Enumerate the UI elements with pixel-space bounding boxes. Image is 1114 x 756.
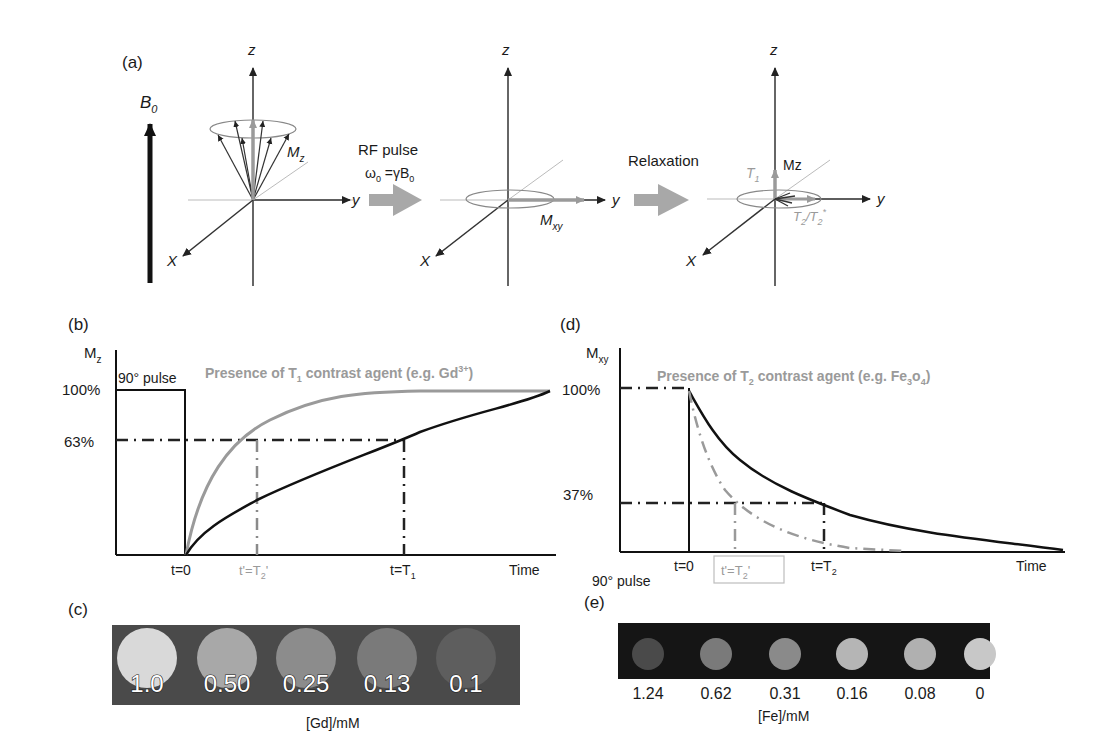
fe-concentration-label: 0.16 bbox=[836, 685, 867, 702]
svg-text:Relaxation: Relaxation bbox=[628, 152, 699, 169]
mz-label: Mz bbox=[287, 143, 305, 164]
y-tick-100: 100% bbox=[562, 381, 600, 398]
panel-d-label: (d) bbox=[560, 315, 581, 334]
mri-relaxation-figure: (a) B0 z y X Mz bbox=[0, 0, 1114, 756]
svg-text:t=0: t=0 bbox=[171, 562, 191, 578]
axes-equilibrium: z y X Mz bbox=[166, 41, 361, 286]
t2-prime-tick: t'=T2' bbox=[721, 563, 750, 581]
fe-well bbox=[769, 638, 801, 670]
rf-pulse-arrow: RF pulse ω0 =γB0 bbox=[358, 141, 422, 216]
native-t2-curve bbox=[689, 391, 1063, 550]
svg-text:y: y bbox=[351, 191, 361, 208]
svg-text:ω0 =γB0: ω0 =γB0 bbox=[365, 165, 414, 184]
t2-tick: t=T2 bbox=[811, 558, 837, 577]
t1-agent-legend: Presence of T1 contrast agent (e.g. Gd3+… bbox=[205, 364, 473, 384]
t2-t2star-label: T2/T2* bbox=[793, 207, 827, 227]
pulse-step bbox=[116, 390, 185, 555]
panel-b-label: (b) bbox=[68, 315, 89, 334]
fe-well bbox=[700, 638, 732, 670]
svg-text:90° pulse: 90° pulse bbox=[592, 573, 651, 589]
t2-prime-tick: t'=T2' bbox=[239, 563, 268, 581]
panel-d: (d) Mxy 100% 37% Presence of T2 contrast… bbox=[560, 315, 1065, 589]
svg-text:z: z bbox=[769, 41, 778, 58]
t2-agent-curve bbox=[689, 391, 905, 551]
t1-tick: t=T1 bbox=[390, 562, 416, 581]
gd-axis-label: [Gd]/mM bbox=[306, 715, 360, 731]
svg-text:z: z bbox=[501, 41, 510, 58]
axes-relaxation: z y X T1 Mz T2/T2* bbox=[685, 41, 886, 286]
native-t1-curve bbox=[186, 391, 550, 555]
panel-e: (e) 1.240.620.310.160.080 [Fe]/mM bbox=[584, 593, 996, 724]
gd-concentration-label: 0.13 bbox=[364, 670, 411, 697]
fe-axis-label: [Fe]/mM bbox=[758, 708, 809, 724]
t2-agent-legend: Presence of T2 contrast agent (e.g. Fe3o… bbox=[657, 368, 930, 387]
mz-plain-label: Mz bbox=[783, 157, 802, 173]
t1-agent-curve bbox=[186, 391, 550, 555]
svg-text:RF pulse: RF pulse bbox=[358, 141, 418, 158]
panel-b: (b) Mz 100% 63% 90° pulse Presence of T1… bbox=[62, 315, 556, 581]
fe-concentration-label: 0.08 bbox=[904, 685, 935, 702]
gd-concentration-label: 0.25 bbox=[283, 670, 330, 697]
relaxation-arrow: Relaxation bbox=[628, 152, 699, 216]
fe-well bbox=[964, 638, 996, 670]
panel-e-label: (e) bbox=[584, 593, 605, 612]
svg-text:X: X bbox=[419, 252, 431, 269]
mxy-label: Mxy bbox=[540, 211, 564, 232]
fe-concentration-label: 0.62 bbox=[700, 685, 731, 702]
panel-a: (a) B0 z y X Mz bbox=[122, 41, 886, 286]
pulse-label: 90° pulse bbox=[118, 370, 177, 386]
svg-text:X: X bbox=[166, 252, 178, 269]
gd-concentration-label: 0.50 bbox=[204, 670, 251, 697]
svg-text:y: y bbox=[876, 190, 886, 207]
y-tick-37: 37% bbox=[563, 486, 593, 503]
svg-text:z: z bbox=[247, 41, 256, 58]
fe-concentration-label: 1.24 bbox=[632, 685, 663, 702]
b0-label: B0 bbox=[140, 93, 158, 115]
panel-a-label: (a) bbox=[122, 53, 143, 72]
fe-concentration-label: 0 bbox=[976, 685, 985, 702]
svg-text:Time: Time bbox=[1016, 558, 1047, 574]
svg-text:y: y bbox=[611, 191, 621, 208]
axes-transverse: z y X Mxy bbox=[419, 41, 621, 286]
svg-text:Time: Time bbox=[509, 562, 540, 578]
gd-concentration-label: 1.0 bbox=[130, 670, 163, 697]
gd-concentration-label: 0.1 bbox=[449, 670, 482, 697]
y-tick-100: 100% bbox=[62, 381, 100, 398]
fe-concentration-label: 0.31 bbox=[769, 685, 800, 702]
fe-well bbox=[632, 638, 664, 670]
y-tick-63: 63% bbox=[64, 433, 94, 450]
t1-label: T1 bbox=[746, 165, 760, 184]
svg-text:t=0: t=0 bbox=[674, 558, 694, 574]
svg-text:X: X bbox=[685, 252, 697, 269]
mz-axis-label: Mz bbox=[84, 344, 102, 365]
fe-well bbox=[904, 638, 936, 670]
panel-c: (c) 1.00.500.250.130.1 [Gd]/mM bbox=[68, 600, 520, 731]
panel-c-label: (c) bbox=[68, 600, 88, 619]
mxy-axis-label: Mxy bbox=[586, 344, 609, 365]
fe-concentration-labels: 1.240.620.310.160.080 bbox=[632, 685, 984, 702]
fe-well bbox=[836, 638, 868, 670]
